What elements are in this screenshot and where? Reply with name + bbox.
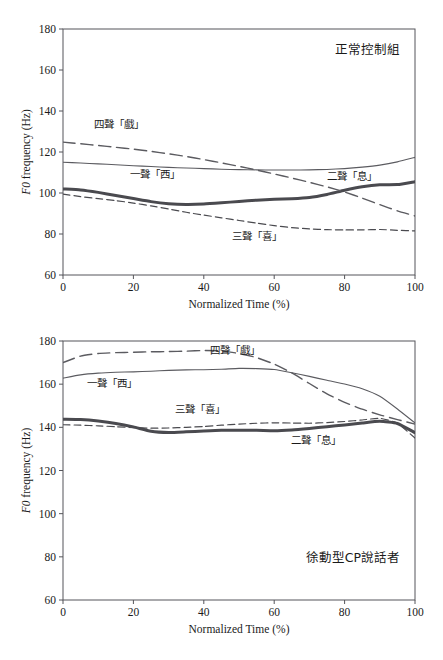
curves-group	[63, 142, 415, 231]
series-label-1: 一聲「西」	[130, 168, 180, 180]
y-tick-label: 120	[39, 146, 57, 158]
y-tick-label: 160	[39, 378, 57, 390]
panel-title-annotation: 徐動型CP說話者	[306, 550, 400, 565]
y-axis-title-f0: F0	[20, 182, 32, 196]
x-tick-label: 20	[128, 606, 140, 618]
series-label-4: 四聲「戲」	[210, 344, 260, 356]
y-tick-label: 60	[45, 269, 57, 281]
series-label-3: 三聲「喜」	[232, 230, 282, 242]
x-tick-label: 60	[268, 281, 280, 293]
chart-top-svg: 6080100120140160180020406080100Normalize…	[0, 0, 443, 325]
x-tick-label: 100	[406, 281, 424, 293]
y-tick-label: 140	[39, 421, 57, 433]
y-tick-label: 80	[45, 228, 57, 240]
y-tick-label: 80	[45, 551, 57, 563]
series-label-2: 二聲「息」	[327, 170, 377, 182]
x-tick-label: 80	[339, 606, 351, 618]
y-axis-title: F0 frequency (Hz)	[20, 428, 33, 515]
x-axis-title: Normalized Time (%)	[189, 623, 290, 636]
x-tick-label: 80	[339, 281, 351, 293]
curves-group	[63, 350, 415, 438]
figure-container: 6080100120140160180020406080100Normalize…	[0, 0, 443, 660]
series-label-4: 四聲「戲」	[94, 118, 144, 130]
chart-panel-top: 6080100120140160180020406080100Normalize…	[0, 0, 443, 325]
y-axis-title-rest: frequency (Hz)	[20, 109, 33, 182]
x-tick-label: 20	[128, 281, 140, 293]
x-tick-label: 100	[406, 606, 424, 618]
y-tick-label: 60	[45, 594, 57, 606]
y-tick-label: 180	[39, 23, 57, 35]
series-label-3: 三聲「喜」	[175, 403, 225, 415]
x-tick-label: 40	[198, 606, 210, 618]
y-axis-title-text: F0 frequency (Hz)	[20, 428, 33, 515]
x-tick-label: 40	[198, 281, 210, 293]
curve-series-3	[63, 194, 415, 231]
curve-series-2	[63, 419, 415, 433]
x-axis-title: Normalized Time (%)	[189, 298, 290, 311]
curve-series-2	[63, 182, 415, 205]
y-tick-label: 180	[39, 335, 57, 347]
y-tick-label: 120	[39, 465, 57, 477]
chart-bottom-svg: 6080100120140160180020406080100Normalize…	[0, 325, 443, 660]
x-tick-label: 60	[268, 606, 280, 618]
curve-series-3	[63, 418, 415, 438]
y-tick-label: 160	[39, 64, 57, 76]
series-label-1: 一聲「西」	[87, 377, 137, 389]
panel-title-annotation: 正常控制組	[335, 42, 400, 57]
curve-series-1	[63, 157, 415, 170]
y-axis-title-rest: frequency (Hz)	[20, 428, 33, 501]
y-tick-label: 100	[39, 508, 57, 520]
x-tick-label: 0	[60, 281, 66, 293]
y-tick-label: 140	[39, 105, 57, 117]
y-tick-label: 100	[39, 187, 57, 199]
y-axis-title-f0: F0	[20, 500, 32, 514]
y-axis-title-text: F0 frequency (Hz)	[20, 109, 33, 196]
chart-panel-bottom: 6080100120140160180020406080100Normalize…	[0, 325, 443, 660]
y-axis-title: F0 frequency (Hz)	[20, 109, 33, 196]
x-tick-label: 0	[60, 606, 66, 618]
series-label-2: 二聲「息」	[291, 434, 341, 446]
